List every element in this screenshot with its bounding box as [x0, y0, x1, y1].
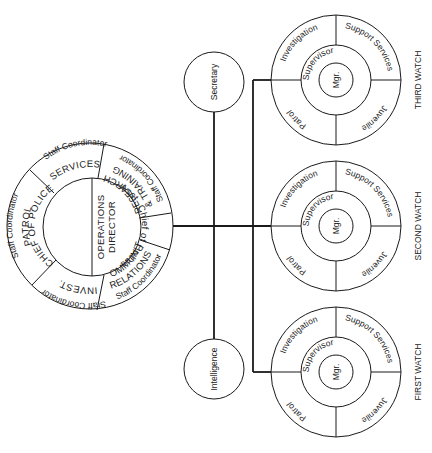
org-chart-diagram: CHIEF OF POLICE Asst. Chief of Police OP…	[0, 0, 432, 453]
svg-text:Secretary: Secretary	[209, 63, 219, 100]
svg-text:Support Services: Support Services	[344, 166, 396, 218]
third-watch-circle: Mgr. Supervisor Investigation Support Se…	[271, 15, 401, 145]
svg-text:Support Services: Support Services	[344, 312, 396, 364]
svg-text:Juvenile: Juvenile	[360, 250, 390, 280]
second-watch-title: SECOND WATCH	[413, 192, 423, 261]
svg-text:Patrol: Patrol	[284, 400, 307, 423]
command-circle: CHIEF OF POLICE Asst. Chief of Police OP…	[0, 0, 173, 311]
svg-text:Patrol: Patrol	[284, 254, 307, 277]
svg-text:Mgr.: Mgr.	[331, 72, 341, 89]
svg-text:Intelligence: Intelligence	[209, 347, 219, 390]
segment-invest: Staff Coordinator INVEST.	[39, 278, 106, 311]
segment-patrol: Staff Coordinator PATROL	[4, 191, 33, 260]
svg-text:Juvenile: Juvenile	[360, 396, 390, 426]
svg-text:INVEST.: INVEST.	[56, 278, 98, 297]
svg-text:Staff Coordinator: Staff Coordinator	[41, 137, 108, 162]
director-label: DIRECTOR	[106, 201, 117, 253]
connector-lines	[173, 80, 271, 372]
first-watch-circle: Mgr. Supervisor Investigation Support Se…	[271, 307, 401, 437]
svg-text:Patrol: Patrol	[284, 108, 307, 131]
svg-text:Mgr.: Mgr.	[331, 218, 341, 235]
svg-text:Juvenile: Juvenile	[360, 104, 390, 134]
svg-text:Mgr.: Mgr.	[331, 364, 341, 381]
intelligence-node: Intelligence	[184, 339, 244, 399]
secretary-node: Secretary	[184, 52, 244, 112]
svg-text:Support Services: Support Services	[344, 20, 396, 72]
first-watch-title: FIRST WATCH	[413, 344, 423, 401]
second-watch-circle: Mgr. Supervisor Investigation Support Se…	[271, 161, 401, 291]
svg-text:Staff Coordinator: Staff Coordinator	[4, 191, 21, 260]
third-watch-title: THIRD WATCH	[413, 51, 423, 110]
operations-label: OPERATIONS	[95, 195, 106, 260]
